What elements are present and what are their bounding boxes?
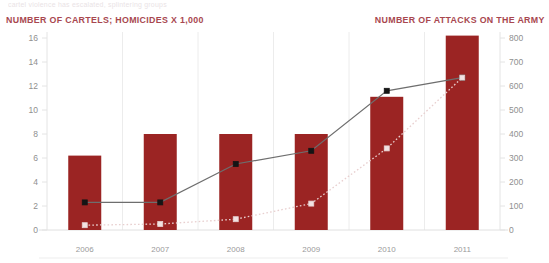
svg-text:8: 8 bbox=[33, 129, 38, 139]
svg-text:14: 14 bbox=[29, 57, 39, 67]
chart-plot: 0246810121416010020030040050060070080020… bbox=[0, 0, 549, 263]
svg-text:2008: 2008 bbox=[227, 245, 245, 254]
svg-text:2006: 2006 bbox=[76, 245, 94, 254]
chart-container: cartel violence has escalated, splinteri… bbox=[0, 0, 549, 263]
svg-text:500: 500 bbox=[509, 105, 523, 115]
svg-text:700: 700 bbox=[509, 57, 523, 67]
svg-text:10: 10 bbox=[29, 105, 39, 115]
svg-text:2009: 2009 bbox=[302, 245, 320, 254]
svg-text:4: 4 bbox=[33, 177, 38, 187]
svg-text:300: 300 bbox=[509, 153, 523, 163]
svg-text:2011: 2011 bbox=[454, 245, 472, 254]
svg-text:0: 0 bbox=[509, 225, 514, 235]
svg-text:16: 16 bbox=[29, 33, 39, 43]
svg-text:2010: 2010 bbox=[378, 245, 396, 254]
svg-text:6: 6 bbox=[33, 153, 38, 163]
svg-text:2: 2 bbox=[33, 201, 38, 211]
svg-text:12: 12 bbox=[29, 81, 39, 91]
svg-text:400: 400 bbox=[509, 129, 523, 139]
svg-text:600: 600 bbox=[509, 81, 523, 91]
svg-text:2007: 2007 bbox=[151, 245, 169, 254]
svg-text:200: 200 bbox=[509, 177, 523, 187]
svg-text:800: 800 bbox=[509, 33, 523, 43]
svg-text:100: 100 bbox=[509, 201, 523, 211]
svg-text:0: 0 bbox=[33, 225, 38, 235]
